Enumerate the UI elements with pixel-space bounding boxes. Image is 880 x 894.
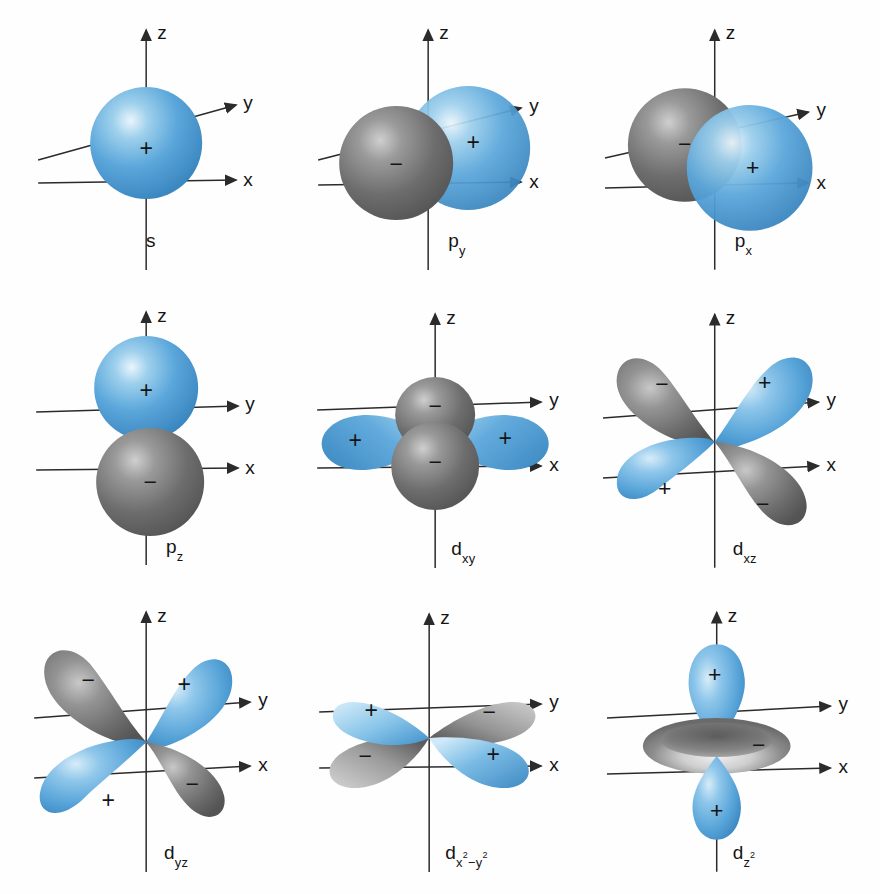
axis-label-y: y [549, 389, 559, 410]
axis-label-y: y [816, 99, 826, 120]
sign-positive-lower-right: + [487, 741, 500, 767]
lobe-dyz-negative-upper-left [44, 650, 146, 745]
orbital-panel-s: + z y x s [0, 0, 293, 290]
axis-label-y: y [826, 389, 836, 410]
orbital-label-dyz: dyz [164, 842, 188, 864]
axis-label-z: z [157, 605, 167, 626]
sign-positive-upper-left: + [365, 697, 378, 723]
orbital-panel-px: − + z y x px [587, 0, 880, 290]
axis-label-y: y [549, 691, 559, 712]
axis-lines [319, 614, 541, 872]
orbital-label-s: s [146, 230, 156, 252]
orbital-label-dz2: dz2 [733, 842, 756, 864]
lobe-dx2y2-positive-lower-right [429, 737, 529, 788]
axis-label-x: x [529, 171, 539, 192]
sign-positive-lower: + [710, 797, 723, 823]
orbital-grid: + z y x s − + [0, 0, 880, 894]
axis-label-x: x [258, 754, 268, 775]
orbital-panel-dxy: − − + + z y x dxy [293, 290, 586, 590]
axis-label-y: y [245, 393, 255, 414]
axis-label-z: z [725, 22, 734, 43]
sign-positive: + [467, 129, 480, 155]
sign-negative-lower-right: − [185, 771, 198, 797]
lobe-dyz-positive-lower-left [40, 739, 146, 813]
axis-label-x: x [816, 172, 826, 193]
sign-positive-upper-right: + [758, 369, 771, 395]
orbital-label-dxz: dxz [733, 538, 757, 560]
sign-negative: − [678, 131, 691, 157]
sign-positive-upper-right: + [177, 671, 190, 697]
sign-negative-lower-right: − [756, 491, 769, 517]
axis-label-z: z [157, 305, 167, 326]
orbital-label-dx2y2: dx2−y2 [445, 842, 487, 864]
sign-positive-lower-left: + [658, 475, 671, 501]
sign-negative-upper-left: − [81, 667, 94, 693]
sign-positive-upper: + [708, 661, 721, 687]
orbital-figure: + z y x s − + [0, 0, 880, 894]
sign-positive-left: + [349, 427, 362, 453]
axis-label-z: z [157, 22, 167, 43]
lobe-dx2y2-negative-lower-left [330, 737, 430, 789]
axis-label-y: y [529, 95, 539, 116]
sign-positive-lower-left: + [101, 787, 114, 813]
sign-positive: + [139, 377, 152, 403]
sign-negative-upper-left: − [655, 371, 668, 397]
sign-negative: − [143, 469, 156, 495]
orbital-label-dxy: dxy [451, 538, 475, 560]
axis-label-y: y [838, 693, 848, 714]
orbital-label-py: py [448, 230, 465, 252]
orbital-panel-dx2y2: + − − + z y x dx2−y2 [293, 590, 586, 894]
orbital-panel-dxz: − + + − z y x dxz [587, 290, 880, 590]
sign-positive: + [139, 135, 152, 161]
axis-label-y: y [258, 689, 268, 710]
sign-positive: + [746, 154, 759, 180]
sign-negative-upper-right: − [483, 699, 496, 725]
axis-label-z: z [439, 22, 449, 43]
orbital-panel-dz2: + − + z y x dz2 [587, 590, 880, 894]
sign-negative-upper: − [429, 393, 442, 419]
axis-label-x: x [549, 754, 559, 775]
sign-positive-right: + [499, 425, 512, 451]
sign-negative-lower: − [429, 449, 442, 475]
sign-negative: − [390, 151, 403, 177]
axis-label-x: x [838, 756, 848, 777]
orbital-panel-dyz: − + + − z y x dyz [0, 590, 293, 894]
orbital-panel-py: − + z y x py [293, 0, 586, 290]
axis-label-z: z [446, 307, 456, 328]
axis-label-x: x [826, 454, 836, 475]
axis-label-z: z [440, 607, 450, 628]
axis-label-z: z [727, 605, 736, 626]
orbital-label-pz: pz [166, 536, 183, 558]
sign-negative-torus: − [752, 732, 765, 758]
axis-label-x: x [245, 457, 255, 478]
orbital-panel-pz: + − z y x pz [0, 290, 293, 590]
axis-label-z: z [725, 307, 734, 328]
axis-label-x: x [549, 454, 559, 475]
axis-label-x: x [243, 169, 253, 190]
orbital-label-px: px [735, 230, 752, 252]
axis-label-y: y [243, 92, 253, 113]
sign-negative-lower-left: − [359, 743, 372, 769]
